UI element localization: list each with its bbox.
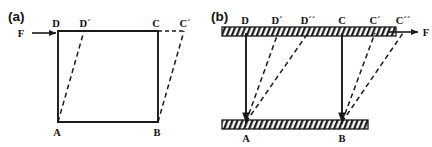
vertex-label-A-a: A [53, 127, 61, 138]
figure-root: (a) F D C A B D´ C´ (b) [0, 0, 432, 147]
vertex-label-B-a: B [153, 127, 160, 138]
panel-a-force-arrow: F [18, 28, 56, 39]
force-label-b: F [423, 27, 429, 38]
dashed-edge-B-Cprime [158, 31, 184, 122]
dashed-edge-B-Cprime-b [342, 33, 375, 122]
panel-b-tag: (b) [211, 9, 228, 24]
dashed-edge-A-Dpprime-b [246, 33, 308, 122]
bottom-plate-hatch [222, 120, 368, 129]
vertex-label-C-a: C [152, 18, 160, 29]
force-label-a: F [18, 28, 24, 39]
vertex-label-Cprime-b: C´ [369, 15, 381, 26]
top-plate [222, 27, 396, 36]
dashed-edge-A-Dprime-b [246, 33, 278, 122]
undeformed-block-a [58, 31, 158, 122]
panel-a-group: (a) F D C A B D´ C´ [8, 9, 191, 138]
dashed-edge-B-Cpprime-b [342, 33, 403, 122]
vertex-label-C-b: C [338, 15, 346, 26]
dashed-edge-A-Dprime [58, 31, 84, 122]
vertex-label-Cpprime-b: C´´ [396, 15, 411, 26]
top-plate-hatch [222, 27, 396, 36]
panel-a-tag: (a) [8, 9, 25, 24]
vertex-label-A-b: A [242, 133, 250, 144]
vertex-label-B-b: B [338, 133, 345, 144]
shear-deformation-figure: (a) F D C A B D´ C´ (b) [0, 0, 432, 147]
vertex-label-D-a: D [52, 18, 60, 29]
vertex-label-D-b: D [241, 15, 249, 26]
panel-b-group: (b) F [211, 9, 429, 144]
bottom-plate [222, 120, 368, 129]
vertex-label-Dprime-a: D´ [79, 18, 91, 29]
vertex-label-Dprime-b: D´ [271, 15, 283, 26]
vertex-label-Dpprime-b: D´´ [301, 15, 316, 26]
vertex-label-Cprime-a: C´ [179, 18, 191, 29]
